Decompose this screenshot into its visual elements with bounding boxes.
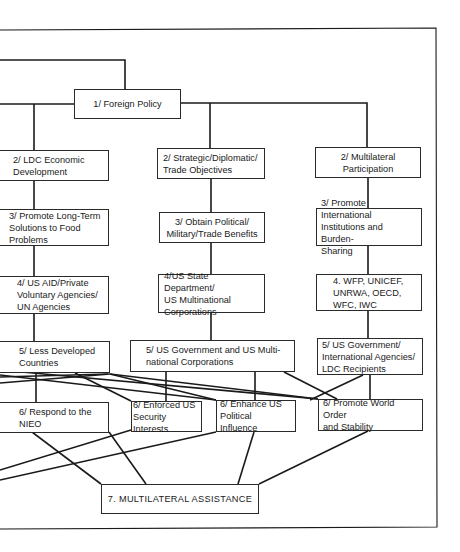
node-label: 4/ US AID/Private Voluntary Agencies/ UN… [17,277,98,313]
node-label: 5/ US Government/ International Agencies… [322,339,415,375]
node-label: 7. MULTILATERAL ASSISTANCE [108,493,252,505]
node-us-aid: 4/ US AID/Private Voluntary Agencies/ UN… [0,276,109,314]
node-label: 6/ Enhance US Political Influence [220,398,290,434]
node-foreign-policy: 1/ Foreign Policy [74,89,181,119]
node-ldc-economic-development: 2/ LDC Economic Development [0,150,109,181]
node-label: 6/ Promote World Order and Stability [323,397,417,433]
node-us-government-corporations: 5/ US Government and US Multi- national … [130,340,295,372]
node-less-developed-countries: 5/ Less Developed Countries [0,341,110,373]
node-label: 2/ Multilateral Participation [341,151,396,175]
node-international-institutions: 3/ Promote International Institutions an… [316,208,422,246]
node-security-interests: 6/ Enforced US Security Interests [131,401,202,432]
node-food-solutions: 3/ Promote Long-Term Solutions to Food P… [0,209,109,246]
node-world-order: 6/ Promote World Order and Stability [318,399,423,431]
node-wfp-agencies: 4. WFP, UNICEF, UNRWA, OECD, WFC, IWC [316,274,422,311]
node-label: 6/ Enforced US Security Interests [133,399,200,435]
node-label: 4. WFP, UNICEF, UNRWA, OECD, WFC, IWC [333,275,403,311]
node-label: 2/ Strategic/Diplomatic/ Trade Objective… [163,152,257,176]
node-respond-nieo: 6/ Respond to the NIEO [0,402,109,433]
node-label: 5/ Less Developed Countries [19,345,95,369]
node-multilateral-participation: 2/ Multilateral Participation [315,147,421,178]
node-label: 3/ Promote Long-Term Solutions to Food P… [9,210,100,246]
node-label: 3/ Obtain Political/ Military/Trade Bene… [166,216,257,240]
node-label: 6/ Respond to the NIEO [19,406,92,430]
node-label: 5/ US Government and US Multi- national … [146,344,280,368]
node-multilateral-assistance: 7. MULTILATERAL ASSISTANCE [101,484,259,514]
node-strategic-objectives: 2/ Strategic/Diplomatic/ Trade Objective… [157,148,265,179]
node-political-influence: 6/ Enhance US Political Influence [216,400,296,432]
node-label: 2/ LDC Economic Development [13,154,85,178]
node-obtain-benefits: 3/ Obtain Political/ Military/Trade Bene… [159,212,265,243]
node-label: 3/ Promote International Institutions an… [321,197,416,257]
node-state-department: 4/US State Department/ US Multinational … [158,274,265,313]
node-label: 4/US State Department/ US Multinational … [164,270,259,318]
node-label: 1/ Foreign Policy [93,98,161,110]
diagram-canvas: 1/ Foreign Policy 2/ LDC Economic Develo… [0,0,460,552]
node-ldc-recipients: 5/ US Government/ International Agencies… [317,338,423,375]
